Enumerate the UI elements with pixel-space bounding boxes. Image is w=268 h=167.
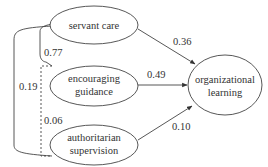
path-diagram: servant care encouraging guidance author… (0, 0, 268, 167)
node-servant-care: servant care (50, 6, 138, 44)
node-label: organizational (195, 74, 255, 85)
node-organizational-learning: organizational learning (188, 55, 262, 115)
coef-servant-learning: 0.36 (173, 36, 191, 47)
corr-servant-authoritarian: 0.19 (19, 81, 37, 92)
node-label: encouraging (68, 73, 121, 84)
node-label: authoritarian (67, 132, 121, 143)
node-label: supervision (70, 145, 119, 156)
node-label: servant care (69, 20, 120, 31)
node-encouraging-guidance: encouraging guidance (50, 66, 138, 106)
node-authoritarian-supervision: authoritarian supervision (50, 125, 138, 165)
node-label: learning (208, 87, 243, 98)
node-label: guidance (75, 86, 113, 97)
corr-encouraging-authoritarian: 0.06 (44, 115, 62, 126)
correlation-line-servant-encouraging (40, 24, 52, 66)
corr-servant-encouraging: 0.77 (44, 47, 62, 58)
coef-authoritarian-learning: 0.10 (172, 121, 190, 132)
coef-encouraging-learning: 0.49 (147, 69, 165, 80)
